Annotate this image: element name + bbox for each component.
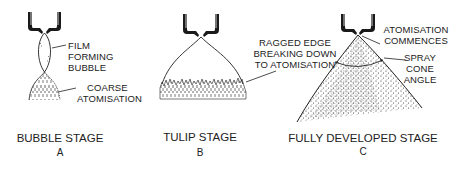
stage-title-a: BUBBLE STAGE: [15, 132, 105, 145]
callout-line: CONE: [400, 63, 440, 74]
stage-title-b: TULIP STAGE: [155, 131, 245, 144]
callout-line: COMMENCES: [382, 35, 450, 46]
callout-line: BREAKING DOWN: [253, 48, 337, 59]
ragged-edge: [160, 78, 246, 99]
callout-line: FILM: [68, 40, 114, 51]
callout-atomisation-commences: ATOMISATION COMMENCES: [382, 24, 450, 46]
callout-ragged-edge: RAGGED EDGE BREAKING DOWN TO ATOMISATION: [253, 37, 337, 70]
callout-spray-cone-angle: SPRAY CONE ANGLE: [400, 52, 440, 85]
callout-line: ANGLE: [400, 74, 440, 85]
stage-letter-a: A: [15, 147, 105, 159]
callout-line: ATOMISATION: [382, 24, 450, 35]
callout-line: ATOMISATION: [77, 93, 142, 104]
callout-film-forming-bubble: FILM FORMING BUBBLE: [68, 40, 114, 73]
nozzle-icon-c: [341, 14, 375, 35]
nozzle-icon-b: [183, 14, 219, 37]
stage-letter-c: C: [288, 146, 438, 158]
spray-stages-diagram: FILM FORMING BUBBLE COARSE ATOMISATION B…: [0, 0, 462, 172]
callout-line: TO ATOMISATION: [253, 59, 337, 70]
callout-line: FORMING: [68, 51, 114, 62]
callout-line: BUBBLE: [68, 62, 114, 73]
stage-letter-b: B: [155, 147, 245, 159]
film-bubble: [38, 33, 50, 72]
callout-line: SPRAY: [400, 52, 440, 63]
nozzle-icon-a: [28, 12, 61, 34]
callout-line: RAGGED EDGE: [253, 37, 337, 48]
callout-line: COARSE: [77, 82, 142, 93]
stage-title-c: FULLY DEVELOPED STAGE: [288, 132, 438, 145]
callout-coarse-atomisation: COARSE ATOMISATION: [77, 82, 142, 104]
